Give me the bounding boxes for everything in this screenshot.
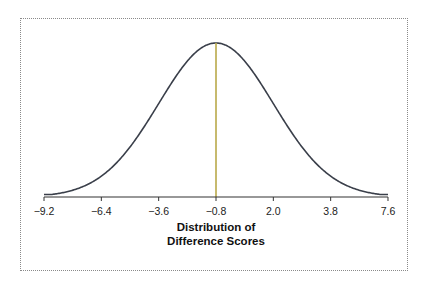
x-tick-label: 7.6 [381, 205, 396, 217]
x-tick-label: −6.4 [91, 205, 112, 217]
x-tick-label: −3.6 [148, 205, 169, 217]
x-axis-ticks [44, 197, 388, 201]
x-tick-label: −0.8 [206, 205, 227, 217]
x-axis-title-line2: Difference Scores [167, 234, 265, 248]
x-tick-label: 2.0 [266, 205, 281, 217]
x-axis-title: Distribution of Difference Scores [167, 220, 265, 248]
x-tick-label: 3.8 [323, 205, 338, 217]
x-axis-title-line1: Distribution of [167, 220, 265, 234]
x-tick-label: −9.2 [34, 205, 55, 217]
